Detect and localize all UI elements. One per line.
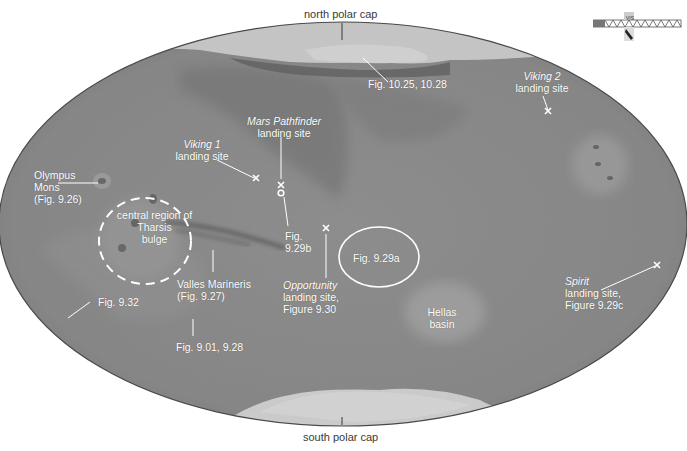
olympus-mons-label: Olympus Mons (Fig. 9.26) xyxy=(34,169,82,205)
viking-2-sub: landing site xyxy=(502,82,582,94)
pathfinder-sub: landing site xyxy=(238,127,330,139)
fig-901-label: Fig. 9.01, 9.28 xyxy=(176,341,243,353)
south-polar-cap-label: south polar cap xyxy=(303,431,378,443)
pathfinder-label: Mars Pathfinder landing site xyxy=(238,115,330,139)
orientation-label: VIS xyxy=(626,12,634,24)
fig-929a-label: Fig. 9.29a xyxy=(353,252,400,264)
viking-2-label: Viking 2 landing site xyxy=(502,70,582,94)
valles-marineris-label: Valles Marineris (Fig. 9.27) xyxy=(177,278,251,302)
viking-2-name: Viking 2 xyxy=(523,70,560,82)
viking-1-sub: landing site xyxy=(168,150,236,162)
opportunity-label: Opportunity landing site, Figure 9.30 xyxy=(283,279,339,315)
spirit-label: Spirit landing site, Figure 9.29c xyxy=(565,275,623,311)
polar-fig-label: Fig. 10.25, 10.28 xyxy=(368,78,447,90)
orientation-widget: VIS xyxy=(593,12,683,44)
viking-1-name: Viking 1 xyxy=(183,138,220,150)
hellas-basin-label: Hellas basin xyxy=(422,306,462,330)
north-polar-cap-label: north polar cap xyxy=(304,8,377,20)
tharsis-label: central region of Tharsis bulge xyxy=(112,209,197,245)
pathfinder-name: Mars Pathfinder xyxy=(247,115,321,127)
fig-929b-label: Fig. 9.29b xyxy=(285,230,311,254)
mars-map xyxy=(0,0,687,451)
viking-1-label: Viking 1 landing site xyxy=(168,138,236,162)
fig-932-label: Fig. 9.32 xyxy=(98,296,139,308)
